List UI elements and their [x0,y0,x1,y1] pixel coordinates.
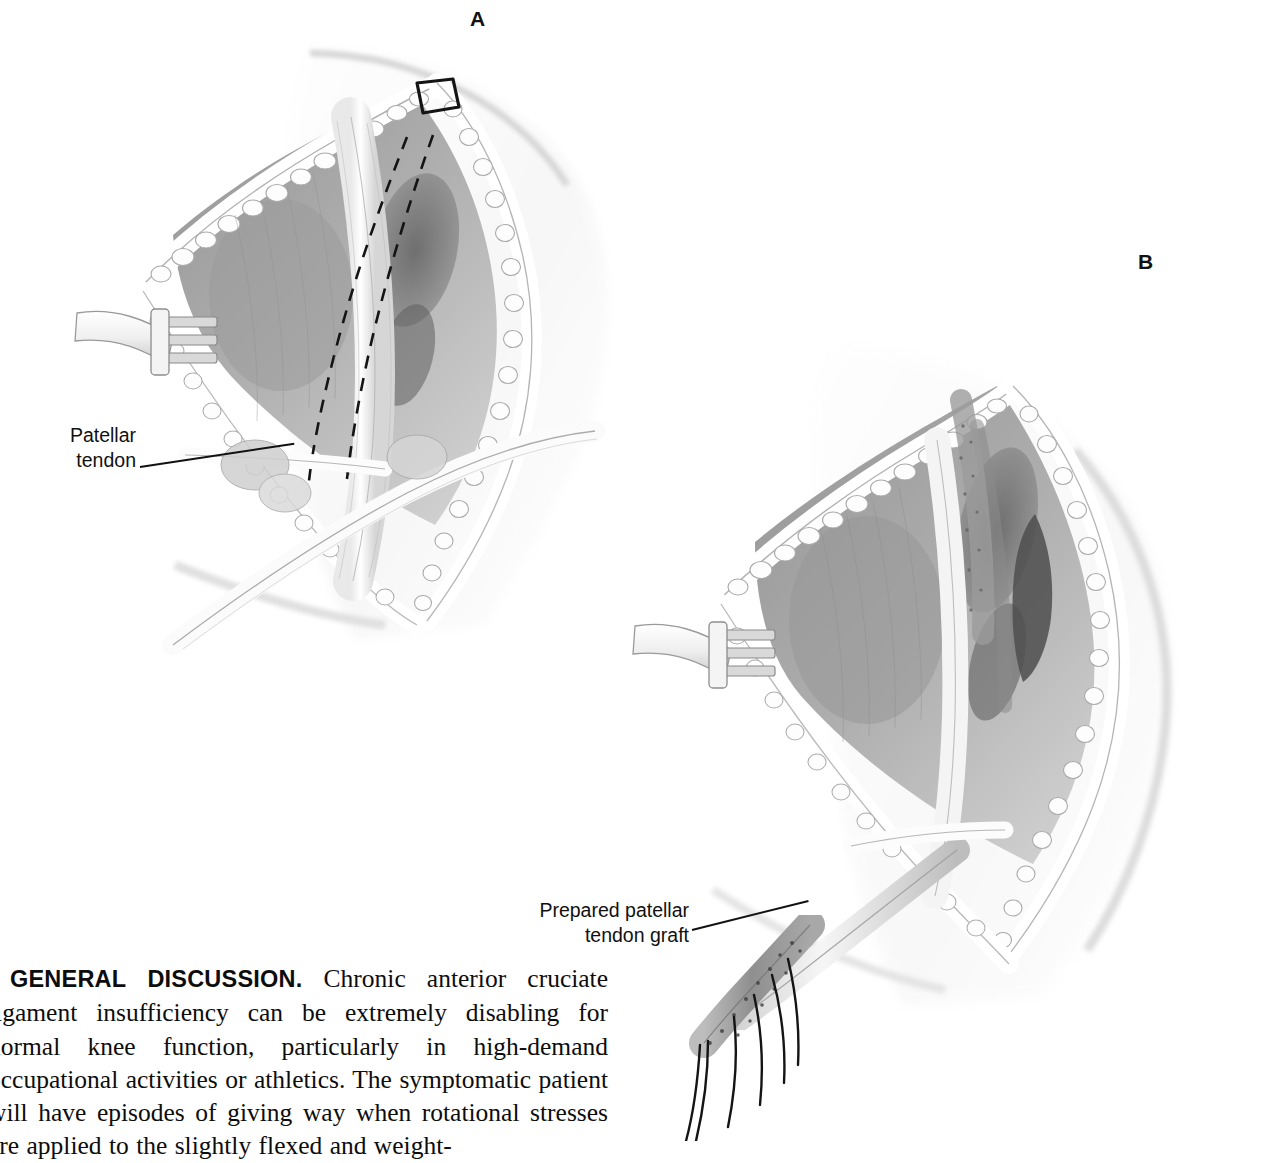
body-paragraph-text: Chronic anterior cruciate ligament insuf… [0,964,608,1160]
callout-prepared-graft: Prepared patellar tendon graft [497,898,689,948]
panel-a-illustration [55,25,675,665]
panel-label-b: B [1138,250,1154,274]
body-heading: GENERAL DISCUSSION. [10,966,302,992]
body-paragraph: GENERAL DISCUSSION. Chronic anterior cru… [0,962,608,1163]
panel-label-a: A [470,7,486,31]
prepared-graft-with-sutures [660,915,960,1141]
callout-patellar-tendon: Patellar tendon [24,423,136,473]
